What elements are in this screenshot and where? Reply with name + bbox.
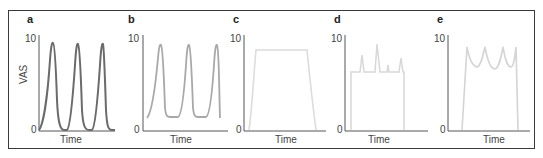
x-axis-label-c: Time <box>275 134 297 145</box>
panel-label-e: e <box>437 13 443 25</box>
panel-label-a: a <box>27 13 34 25</box>
x-axis-label-b: Time <box>170 134 192 145</box>
series-line-c <box>249 50 316 130</box>
series-line-e <box>462 47 518 130</box>
series-line-d <box>351 44 404 130</box>
x-axis-label-d: Time <box>368 134 390 145</box>
ytick-top-d: 10 <box>331 33 343 44</box>
figure-canvas: a 10 0 VAS Time b 10 0 Time c 10 0 Time … <box>0 0 543 158</box>
panel-label-b: b <box>128 13 135 25</box>
ytick-top-c: 10 <box>230 33 242 44</box>
panel-c: c 10 0 Time <box>230 13 326 145</box>
ytick-bottom-e: 0 <box>440 124 446 135</box>
ytick-bottom-d: 0 <box>337 124 343 135</box>
ytick-top-b: 10 <box>128 33 140 44</box>
ytick-top-e: 10 <box>434 33 446 44</box>
x-axis-label-e: Time <box>483 134 505 145</box>
ytick-top-a: 10 <box>25 33 37 44</box>
ytick-bottom-c: 0 <box>236 124 242 135</box>
ytick-bottom-a: 0 <box>31 124 37 135</box>
x-axis-label-a: Time <box>60 134 82 145</box>
y-axis-label-a: VAS <box>18 64 29 84</box>
panel-e: e 10 0 Time <box>434 13 530 145</box>
panel-b: b 10 0 Time <box>128 13 228 145</box>
panel-label-d: d <box>334 13 341 25</box>
ytick-bottom-b: 0 <box>134 124 140 135</box>
panel-d: d 10 0 Time <box>331 13 428 145</box>
panel-a: a 10 0 VAS Time <box>18 13 115 145</box>
series-line-a <box>39 43 115 130</box>
panel-label-c: c <box>233 13 239 25</box>
series-line-b <box>147 45 220 118</box>
